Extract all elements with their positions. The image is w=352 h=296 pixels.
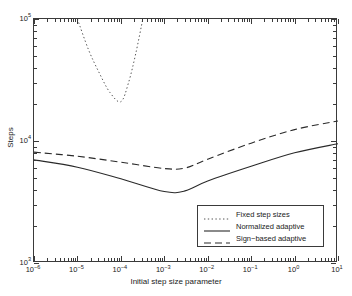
x-tick-minor-top — [71, 19, 72, 22]
x-tick-minor-top — [75, 19, 76, 22]
x-tick-minor-top — [134, 19, 135, 22]
x-tick-minor — [108, 258, 109, 261]
x-tick-minor — [290, 258, 291, 261]
x-tick-minor-top — [60, 19, 61, 22]
x-tick-minor-top — [247, 19, 248, 22]
x-tick-major — [251, 256, 252, 261]
x-tick-exponent: −4 — [121, 264, 127, 270]
y-tick-minor-right — [333, 147, 336, 148]
x-tick-minor — [151, 258, 152, 261]
x-tick-minor-top — [64, 19, 65, 22]
x-tick-label: 101 — [331, 265, 342, 274]
x-tick-minor — [64, 258, 65, 261]
x-tick-minor-top — [160, 19, 161, 22]
x-tick-minor — [142, 258, 143, 261]
x-tick-minor — [325, 258, 326, 261]
x-tick-label: 100 — [288, 265, 299, 274]
x-tick-minor-top — [158, 19, 159, 22]
x-tick-minor — [315, 258, 316, 261]
x-tick-minor — [71, 258, 72, 261]
y-tick-minor-right — [333, 160, 336, 161]
legend-swatch-dashed-icon — [203, 234, 231, 244]
x-tick-minor-top — [68, 19, 69, 22]
x-tick-minor — [73, 258, 74, 261]
x-tick-minor-top — [91, 19, 92, 22]
x-tick-label: 10−4 — [112, 265, 127, 274]
x-tick-minor — [272, 258, 273, 261]
x-tick-minor-top — [308, 19, 309, 22]
x-tick-minor — [55, 258, 56, 261]
x-tick-major — [295, 256, 296, 261]
x-tick-minor-top — [111, 19, 112, 22]
x-tick-minor — [201, 258, 202, 261]
y-tick-minor-right — [333, 38, 336, 39]
x-tick-minor-top — [198, 19, 199, 22]
x-tick-major — [164, 256, 165, 261]
x-tick-minor — [162, 258, 163, 261]
x-tick-major-top — [208, 19, 209, 24]
x-tick-minor-top — [325, 19, 326, 22]
x-tick-minor — [285, 258, 286, 261]
x-tick-major-top — [251, 19, 252, 24]
y-tick-minor — [34, 46, 37, 47]
x-tick-minor-top — [244, 19, 245, 22]
x-tick-minor — [111, 258, 112, 261]
x-tick-minor — [68, 258, 69, 261]
x-tick-minor — [155, 258, 156, 261]
y-tick-minor-right — [333, 205, 336, 206]
y-tick-minor-right — [333, 178, 336, 179]
x-tick-minor — [160, 258, 161, 261]
x-tick-minor-top — [47, 19, 48, 22]
x-tick-minor-top — [151, 19, 152, 22]
x-tick-minor-top — [104, 19, 105, 22]
x-tick-minor-top — [201, 19, 202, 22]
x-tick-major — [77, 256, 78, 261]
x-tick-major-top — [338, 19, 339, 24]
y-tick-minor — [34, 31, 37, 32]
y-tick-minor — [34, 38, 37, 39]
y-tick-minor-right — [333, 226, 336, 227]
x-tick-major — [208, 256, 209, 261]
x-tick-label: 10−1 — [243, 265, 258, 274]
x-tick-minor — [238, 258, 239, 261]
legend-item[interactable]: Fixed step sizes — [198, 209, 323, 221]
y-tick-major-right — [331, 263, 336, 264]
x-tick-minor-top — [336, 19, 337, 22]
x-tick-major-top — [164, 19, 165, 24]
x-tick-minor-top — [228, 19, 229, 22]
x-tick-minor-top — [290, 19, 291, 22]
y-tick-major-right — [331, 141, 336, 142]
x-tick-minor-top — [293, 19, 294, 22]
legend-label: Fixed step sizes — [236, 210, 290, 220]
x-tick-major-top — [295, 19, 296, 24]
x-tick-minor — [328, 258, 329, 261]
y-tick-minor-right — [333, 68, 336, 69]
legend-swatch-solid-icon — [203, 222, 231, 232]
x-tick-minor — [336, 258, 337, 261]
x-tick-minor-top — [117, 19, 118, 22]
x-tick-minor-top — [204, 19, 205, 22]
y-tick-minor — [34, 147, 37, 148]
x-tick-major — [121, 256, 122, 261]
y-tick-exponent: 5 — [28, 12, 31, 18]
y-tick-minor-right — [333, 104, 336, 105]
x-tick-minor-top — [185, 19, 186, 22]
x-tick-minor — [198, 258, 199, 261]
y-tick-major — [34, 141, 39, 142]
x-tick-major — [34, 256, 35, 261]
y-tick-minor — [34, 226, 37, 227]
x-tick-minor — [206, 258, 207, 261]
y-tick-minor-right — [333, 25, 336, 26]
x-tick-exponent: 1 — [340, 264, 343, 270]
x-tick-minor-top — [177, 19, 178, 22]
legend-item[interactable]: Normalized adaptive — [198, 221, 323, 233]
x-tick-minor — [293, 258, 294, 261]
x-tick-minor — [331, 258, 332, 261]
legend-item[interactable]: Sign−based adaptive — [198, 233, 323, 245]
x-tick-minor-top — [242, 19, 243, 22]
x-tick-exponent: −2 — [208, 264, 214, 270]
chart-legend: Fixed step sizesNormalized adaptiveSign−… — [197, 205, 324, 247]
x-tick-major-top — [121, 19, 122, 24]
x-tick-minor-top — [315, 19, 316, 22]
legend-swatch-dotted-icon — [203, 210, 231, 220]
